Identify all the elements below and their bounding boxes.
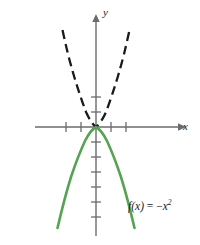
function-argument: (x): [131, 200, 144, 212]
parabola-figure: y x f(x) = −x2: [0, 0, 200, 245]
exponent-two: 2: [168, 198, 172, 207]
y-axis-arrowhead: [92, 14, 99, 22]
x-axis-label: x: [183, 121, 188, 132]
equals-sign: =: [144, 200, 156, 212]
y-axis-label: y: [103, 7, 108, 18]
function-equation-label: f(x) = −x2: [128, 199, 172, 212]
